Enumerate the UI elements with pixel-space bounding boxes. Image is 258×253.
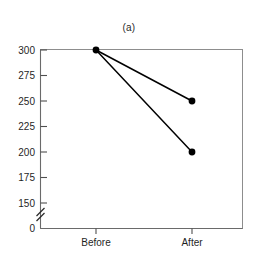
y-tick-label-275: 275 bbox=[18, 70, 35, 81]
y-tick-marks bbox=[41, 50, 48, 203]
y-tick-label-225: 225 bbox=[18, 121, 35, 132]
series-line-subject-2 bbox=[96, 50, 192, 152]
x-tick-label-before: Before bbox=[81, 237, 111, 248]
y-tick-label-300: 300 bbox=[18, 45, 35, 56]
series-line-subject-1 bbox=[96, 50, 192, 101]
figure-panel: (a) 300 275 250 225 200 175 150 bbox=[0, 0, 258, 253]
y-tick-label-150: 150 bbox=[18, 198, 35, 209]
data-point-after-200 bbox=[189, 149, 196, 156]
x-tick-marks bbox=[96, 229, 192, 235]
x-tick-label-after: After bbox=[181, 237, 203, 248]
line-chart-plot: 300 275 250 225 200 175 150 0 Before Aft… bbox=[0, 0, 258, 253]
data-point-after-250 bbox=[189, 98, 196, 105]
y-tick-label-200: 200 bbox=[18, 147, 35, 158]
y-tick-label-250: 250 bbox=[18, 96, 35, 107]
y-tick-label-175: 175 bbox=[18, 172, 35, 183]
y-tick-label-0: 0 bbox=[29, 223, 35, 234]
data-point-before-300 bbox=[93, 47, 100, 54]
plot-frame bbox=[41, 50, 243, 229]
